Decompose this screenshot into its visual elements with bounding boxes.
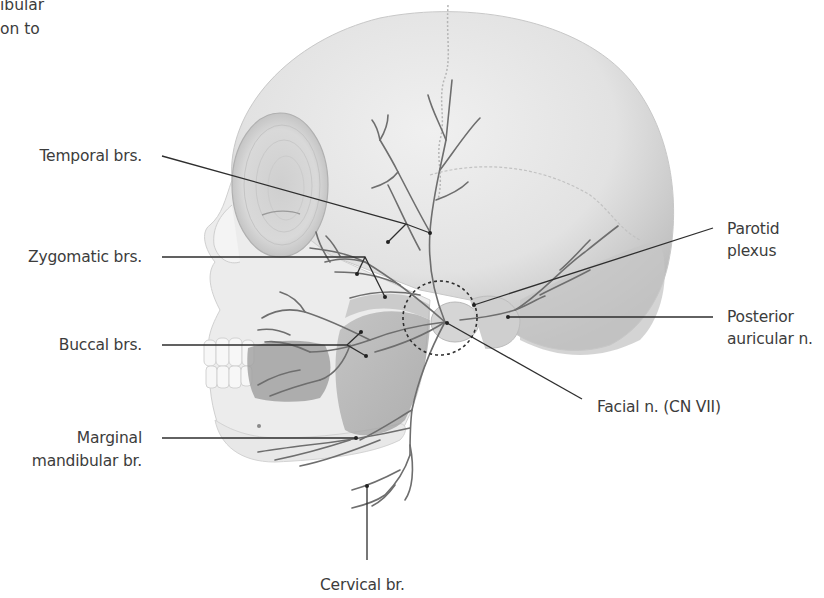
label-posterior-auricular-line2: auricular n. — [727, 330, 813, 349]
cutoff-text-line-2: on to — [0, 18, 40, 41]
label-facial-nerve: Facial n. (CN VII) — [597, 398, 721, 417]
label-zygomatic-branches: Zygomatic brs. — [28, 248, 142, 267]
label-cervical-branch: Cervical br. — [320, 576, 405, 595]
label-marginal-mandibular-line2: mandibular br. — [32, 452, 142, 471]
facial-nerve-diagram: ibular on to Temporal brs. Zygomatic brs… — [0, 0, 824, 598]
label-buccal-branches: Buccal brs. — [59, 336, 142, 355]
label-parotid-plexus-line1: Parotid — [727, 220, 780, 239]
label-temporal-branches: Temporal brs. — [39, 147, 142, 166]
cutoff-text-line-1: ibular — [0, 0, 44, 17]
orbicularis-oculi-muscle — [232, 113, 328, 257]
label-parotid-plexus-line2: plexus — [727, 242, 776, 261]
skull-illustration — [0, 0, 824, 598]
buccinator-muscle — [247, 341, 330, 402]
label-posterior-auricular-line1: Posterior — [727, 308, 794, 327]
masseter-muscle — [335, 294, 430, 436]
label-marginal-mandibular-line1: Marginal — [77, 429, 142, 448]
